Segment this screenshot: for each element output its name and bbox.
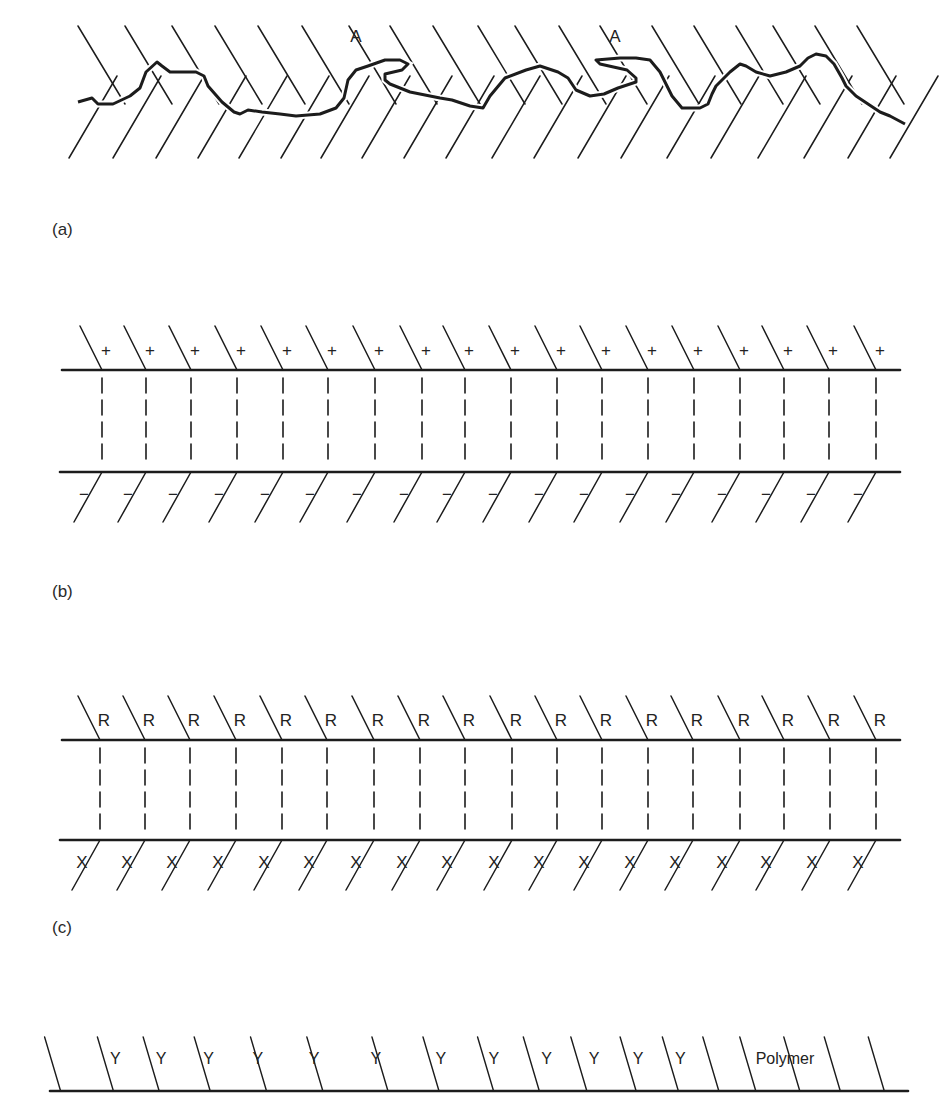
- x-group-label: X: [258, 853, 269, 872]
- upper-hatch-line: [672, 326, 694, 370]
- upper-hatch-line: [854, 696, 876, 740]
- y-group-label: Y: [589, 1050, 600, 1067]
- upper-hatch-line: [626, 326, 648, 370]
- positive-charge: +: [510, 341, 520, 360]
- r-group-label: R: [325, 711, 337, 730]
- lower-hatch-line: [621, 76, 669, 158]
- upper-hatch-line: [671, 696, 693, 740]
- panel-a-rough-interface: AA: [69, 26, 938, 158]
- r-group-label: R: [646, 711, 658, 730]
- x-group-label: X: [624, 853, 635, 872]
- negative-charge: −: [717, 485, 727, 504]
- r-group-label: R: [143, 711, 155, 730]
- y-group-label: Y: [110, 1050, 121, 1067]
- x-group-label: X: [669, 853, 680, 872]
- positive-charge: +: [101, 341, 111, 360]
- y-group-label: Y: [541, 1050, 552, 1067]
- r-group-label: R: [782, 711, 794, 730]
- positive-charge: +: [421, 341, 431, 360]
- upper-hatch-line: [626, 696, 648, 740]
- positive-charge: +: [556, 341, 566, 360]
- x-group-label: X: [441, 853, 452, 872]
- x-group-label: X: [806, 853, 817, 872]
- positive-charge: +: [875, 341, 885, 360]
- x-group-label: X: [121, 853, 132, 872]
- y-group-label: Y: [488, 1050, 499, 1067]
- negative-charge: −: [853, 485, 863, 504]
- r-group-label: R: [418, 711, 430, 730]
- x-group-label: X: [166, 853, 177, 872]
- negative-charge: −: [806, 485, 816, 504]
- surface-hatch-line: [45, 1037, 61, 1091]
- positive-charge: +: [739, 341, 749, 360]
- r-group-label: R: [98, 711, 110, 730]
- panel-label-a: (a): [52, 220, 73, 240]
- panel-d-polymer-surface: YYYYYYYYYYYYPolymer: [45, 1037, 908, 1091]
- upper-hatch-line: [535, 326, 557, 370]
- upper-hatch-line: [260, 696, 282, 740]
- x-group-label: X: [212, 853, 223, 872]
- negative-charge: −: [305, 485, 315, 504]
- interlock-label-a: A: [609, 27, 621, 46]
- y-group-label: Y: [370, 1050, 381, 1067]
- surface-hatch-line: [740, 1037, 756, 1091]
- upper-hatch-line: [854, 326, 876, 370]
- positive-charge: +: [783, 341, 793, 360]
- upper-hatch-line: [762, 326, 784, 370]
- negative-charge: −: [579, 485, 589, 504]
- upper-hatch-line: [400, 326, 422, 370]
- upper-hatch-line: [580, 326, 602, 370]
- lower-hatch-line: [69, 76, 117, 158]
- x-group-label: X: [396, 853, 407, 872]
- surface-hatch-line: [868, 1037, 884, 1091]
- surface-hatch-line: [523, 1037, 539, 1091]
- x-group-label: X: [76, 853, 87, 872]
- positive-charge: +: [282, 341, 292, 360]
- upper-hatch-line: [78, 696, 100, 740]
- negative-charge: −: [534, 485, 544, 504]
- upper-hatch-line: [124, 326, 146, 370]
- positive-charge: +: [828, 341, 838, 360]
- r-group-label: R: [828, 711, 840, 730]
- upper-hatch-line: [352, 696, 374, 740]
- surface-hatch-line: [824, 1037, 840, 1091]
- r-group-label: R: [555, 711, 567, 730]
- negative-charge: −: [761, 485, 771, 504]
- upper-hatch-line: [490, 696, 512, 740]
- r-group-label: R: [280, 711, 292, 730]
- negative-charge: −: [214, 485, 224, 504]
- panel-label-c: (c): [52, 918, 72, 938]
- negative-charge: −: [399, 485, 409, 504]
- positive-charge: +: [601, 341, 611, 360]
- x-group-label: X: [760, 853, 771, 872]
- positive-charge: +: [327, 341, 337, 360]
- upper-hatch-line: [215, 326, 237, 370]
- upper-hatch-line: [489, 326, 511, 370]
- adhesion-diagram: AA +−+−+−+−+−+−+−+−+−+−+−+−+−+−+−+−+−+− …: [0, 0, 945, 1097]
- upper-hatch-line: [78, 26, 125, 104]
- x-group-label: X: [488, 853, 499, 872]
- panel-c-chemical-bonding: RXRXRXRXRXRXRXRXRXRXRXRXRXRXRXRXRXRX: [60, 696, 900, 890]
- upper-hatch-line: [80, 326, 102, 370]
- upper-hatch-line: [261, 326, 283, 370]
- upper-hatch-line: [443, 696, 465, 740]
- upper-hatch-line: [305, 696, 327, 740]
- r-group-label: R: [600, 711, 612, 730]
- negative-charge: −: [168, 485, 178, 504]
- r-group-label: R: [691, 711, 703, 730]
- panel-b-electrostatic-layer: +−+−+−+−+−+−+−+−+−+−+−+−+−+−+−+−+−+−: [60, 326, 900, 522]
- y-group-label: Y: [675, 1050, 686, 1067]
- negative-charge: −: [79, 485, 89, 504]
- negative-charge: −: [260, 485, 270, 504]
- x-group-label: X: [533, 853, 544, 872]
- upper-hatch-line: [808, 696, 830, 740]
- upper-hatch-line: [168, 696, 190, 740]
- y-group-label: Y: [309, 1050, 320, 1067]
- panel-label-b: (b): [52, 582, 73, 602]
- surface-hatch-line: [703, 1037, 719, 1091]
- upper-hatch-line: [718, 696, 740, 740]
- upper-hatch-line: [258, 26, 305, 104]
- upper-hatch-line: [807, 326, 829, 370]
- x-group-label: X: [350, 853, 361, 872]
- upper-hatch-line: [169, 326, 191, 370]
